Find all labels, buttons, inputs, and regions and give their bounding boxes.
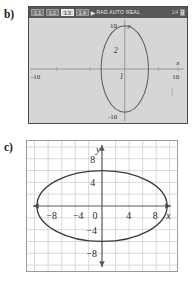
y-axis-arrow-down-icon xyxy=(99,261,105,267)
x-tick-label-8: 8 xyxy=(153,210,158,221)
calc-label-x-right: 10 xyxy=(172,73,179,80)
calc-label-y-top: 10 xyxy=(110,22,117,29)
calc-axis-name-x: x xyxy=(175,59,179,66)
y-tick-label-neg8: −8 xyxy=(87,248,98,259)
battery-icon xyxy=(180,9,185,16)
x-tick-label-neg8: −8 xyxy=(46,210,57,221)
calculator-page-number: 1/4 xyxy=(172,10,178,15)
x-tick-label-4: 4 xyxy=(126,210,131,221)
play-arrow-icon: ▶ xyxy=(91,9,96,16)
calc-label-x-left: -10 xyxy=(31,73,41,80)
calc-label-one: 1 xyxy=(120,72,124,81)
calculator-tab-4[interactable]: 1.4 xyxy=(76,9,89,16)
calculator-tab-2[interactable]: 1.2 xyxy=(46,9,59,16)
calculator-screen-panel: 1.1 1.2 1.3 1.4 ▶ RAD AUTO REAL 1/4 xyxy=(28,6,188,124)
x-tick-label-zero: 0 xyxy=(93,210,98,221)
calculator-graph-area[interactable]: 10 -10 -10 10 2 1 y x xyxy=(29,18,187,123)
grid-plot-panel: −8 −4 0 4 8 8 4 −4 −8 y x xyxy=(26,140,178,272)
y-tick-label-neg4: −4 xyxy=(87,225,98,236)
calculator-status-bar: 1.1 1.2 1.3 1.4 ▶ RAD AUTO REAL 1/4 xyxy=(29,7,187,18)
y-tick-label-4: 4 xyxy=(90,177,95,188)
plot-axis-name-y: y xyxy=(95,144,101,155)
calculator-tab-3[interactable]: 1.3 xyxy=(61,9,74,16)
calculator-tab-1[interactable]: 1.1 xyxy=(31,9,44,16)
calc-label-two: 2 xyxy=(114,46,118,55)
part-label-c: c) xyxy=(4,141,13,153)
calc-label-y-bottom: -10 xyxy=(108,113,118,120)
y-tick-label-8: 8 xyxy=(90,154,95,165)
grid-ellipse-plot: −8 −4 0 4 8 8 4 −4 −8 y x xyxy=(27,141,177,271)
x-axis-arrow-left-icon xyxy=(33,203,39,209)
x-axis-arrow-icon xyxy=(165,203,171,209)
x-tick-label-neg4: −4 xyxy=(73,210,84,221)
part-label-b: b) xyxy=(4,8,14,20)
calculator-ellipse-plot: 10 -10 -10 10 2 1 y x xyxy=(29,18,187,123)
plot-axis-name-x: x xyxy=(165,210,171,221)
calculator-mode-status: RAD AUTO REAL xyxy=(96,9,140,16)
